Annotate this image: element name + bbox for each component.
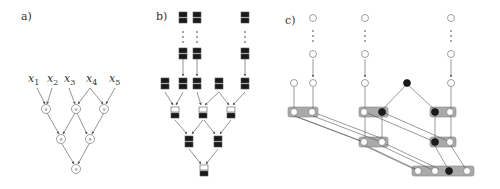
- svg-text:∨: ∨: [44, 106, 48, 112]
- svg-text:∨: ∨: [74, 166, 78, 172]
- panel-c-dots: [312, 30, 452, 42]
- panel-a-circuit: [37, 88, 115, 164]
- svg-text:∨: ∨: [102, 106, 106, 112]
- svg-text:∧: ∧: [88, 136, 92, 142]
- panel-b-registers: [161, 12, 249, 176]
- panel-b-dots: [182, 31, 246, 43]
- svg-text:∧: ∧: [59, 136, 63, 142]
- svg-text:∨: ∨: [74, 106, 78, 112]
- panel-c-nodes: [291, 15, 471, 175]
- diagram-canvas: ∨∨∨ ∧∧ ∨: [0, 0, 500, 189]
- panel-a-nodes: [42, 105, 109, 174]
